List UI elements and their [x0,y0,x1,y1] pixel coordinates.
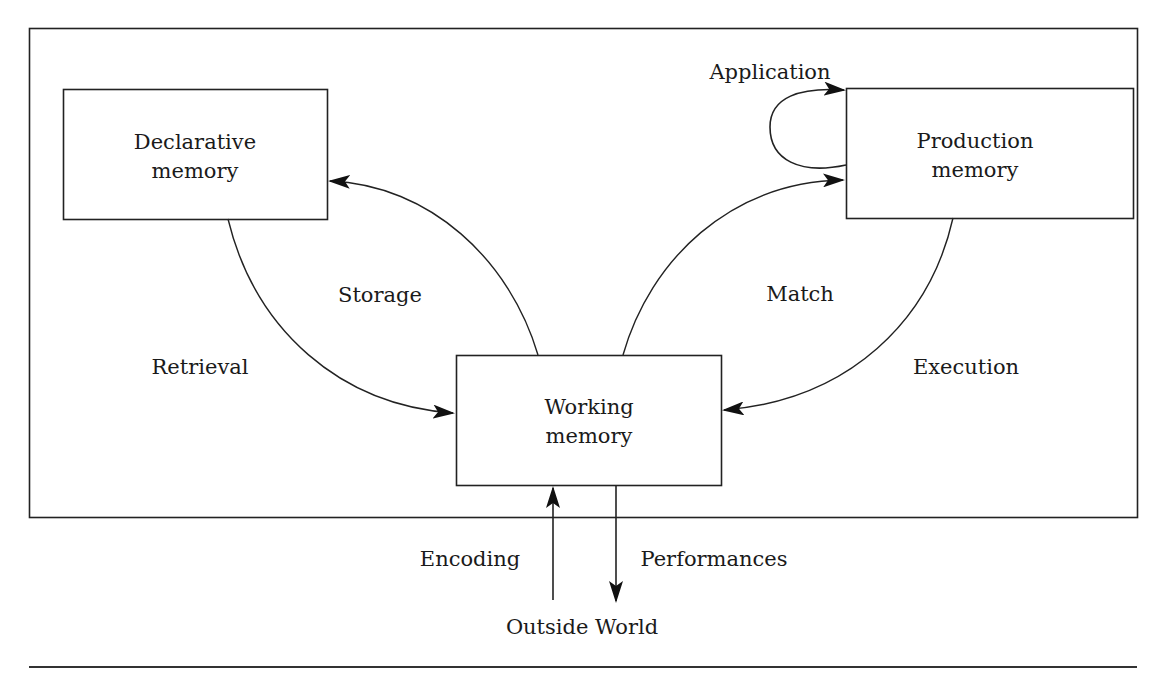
storage-arrow [330,181,538,355]
application-loop-arrow [770,89,846,168]
working-memory-box[interactable]: Working memory [457,356,722,486]
retrieval-label: Retrieval [152,355,249,379]
working-memory-label-line1: Working [544,395,633,419]
match-arrow [623,180,843,355]
declarative-memory-label-line2: memory [152,159,239,183]
outside-world-label: Outside World [506,615,658,639]
match-label: Match [766,282,834,306]
performances-label: Performances [640,547,787,571]
declarative-memory-label-line1: Declarative [134,130,256,154]
encoding-label: Encoding [420,547,520,571]
storage-label: Storage [338,283,422,307]
application-label: Application [708,60,830,84]
memory-architecture-diagram: Declarative memory Production memory Wor… [0,0,1167,678]
production-memory-label-line2: memory [932,158,1019,182]
retrieval-arrow [228,219,453,413]
execution-label: Execution [913,355,1019,379]
execution-arrow [724,218,953,410]
production-memory-label-line1: Production [917,129,1034,153]
production-memory-box[interactable]: Production memory [847,89,1134,219]
declarative-memory-box[interactable]: Declarative memory [64,90,328,220]
working-memory-label-line2: memory [546,424,633,448]
